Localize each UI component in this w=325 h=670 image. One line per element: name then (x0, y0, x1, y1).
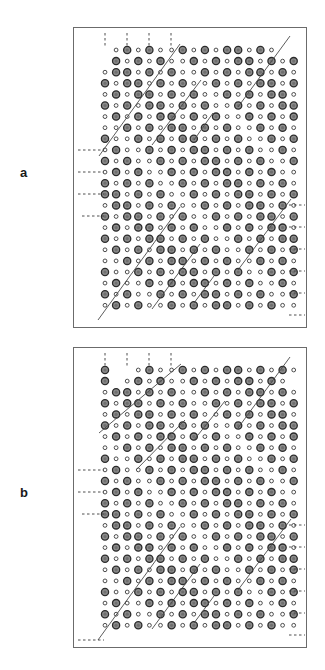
panel-a-lattice-dots (101, 46, 297, 309)
panel-a-glide-lines (78, 33, 305, 320)
lattice-drawing (0, 0, 325, 670)
figure-container: a b (0, 0, 325, 670)
panel-b-glide-lines (78, 353, 305, 640)
